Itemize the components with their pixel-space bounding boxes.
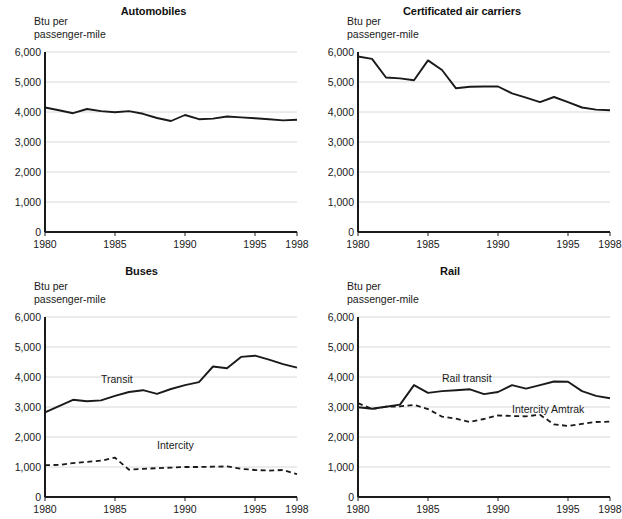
y-axis-tick-label: 3,000	[314, 136, 354, 148]
y-axis-tick-label: 2,000	[1, 166, 41, 178]
series-label: Intercity Amtrak	[512, 403, 584, 415]
y-axis-tick-label: 1,000	[314, 461, 354, 473]
panel-air-carriers: Certificated air carriers Btu per passen…	[307, 0, 617, 260]
y-axis-tick-label: 5,000	[1, 76, 41, 88]
y-axis-label-air-carriers: Btu per passenger-mile	[347, 15, 419, 41]
y-axis-tick-label: 2,000	[1, 431, 41, 443]
panel-automobiles: Automobiles Btu per passenger-mile 01,00…	[0, 0, 307, 260]
x-axis-tick-label: 1985	[416, 238, 439, 250]
y-axis-label-rail: Btu per passenger-mile	[347, 280, 419, 306]
y-axis-tick-label: 1,000	[314, 196, 354, 208]
x-axis-tick-label: 1990	[173, 503, 196, 515]
x-axis-tick-label: 1980	[346, 238, 369, 250]
panel-rail: Rail Btu per passenger-mile 01,0002,0003…	[307, 260, 617, 519]
y-axis-tick-label: 0	[1, 491, 41, 503]
x-axis-tick-label: 1995	[243, 503, 266, 515]
chart-svg	[45, 317, 297, 497]
plot-buses	[45, 317, 297, 497]
data-line	[45, 356, 297, 413]
panel-title-buses: Buses	[0, 265, 307, 277]
x-axis-tick-label: 1990	[486, 503, 509, 515]
y-axis-tick-label: 6,000	[314, 46, 354, 58]
data-line	[45, 458, 297, 475]
y-axis-tick-label: 3,000	[314, 401, 354, 413]
x-axis-tick-label: 1998	[285, 503, 308, 515]
x-axis-tick-label: 1998	[285, 238, 308, 250]
panel-buses: Buses Btu per passenger-mile 01,0002,000…	[0, 260, 307, 519]
y-axis-tick-label: 1,000	[1, 196, 41, 208]
y-axis-tick-label: 2,000	[314, 431, 354, 443]
x-axis-tick-label: 1990	[173, 238, 196, 250]
y-axis-tick-label: 0	[1, 226, 41, 238]
data-line	[358, 57, 610, 111]
x-axis-tick-label: 1985	[103, 238, 126, 250]
series-label: Transit	[101, 373, 133, 385]
plot-automobiles	[45, 52, 297, 232]
x-axis-tick-label: 1995	[556, 238, 579, 250]
x-axis-tick-label: 1980	[33, 238, 56, 250]
y-axis-tick-label: 4,000	[314, 106, 354, 118]
y-axis-tick-label: 6,000	[314, 311, 354, 323]
y-axis-tick-label: 3,000	[1, 401, 41, 413]
y-axis-tick-label: 1,000	[1, 461, 41, 473]
y-axis-tick-label: 5,000	[1, 341, 41, 353]
y-axis-tick-label: 3,000	[1, 136, 41, 148]
y-axis-tick-label: 6,000	[1, 311, 41, 323]
y-axis-tick-label: 5,000	[314, 76, 354, 88]
x-axis-tick-label: 1995	[556, 503, 579, 515]
series-label: Rail transit	[442, 372, 492, 384]
y-axis-label-buses: Btu per passenger-mile	[34, 280, 106, 306]
x-axis-tick-label: 1998	[598, 238, 621, 250]
chart-svg	[358, 52, 610, 232]
x-axis-tick-label: 1985	[103, 503, 126, 515]
x-axis-tick-label: 1995	[243, 238, 266, 250]
x-axis-tick-label: 1980	[33, 503, 56, 515]
y-axis-tick-label: 0	[314, 226, 354, 238]
y-axis-tick-label: 4,000	[1, 106, 41, 118]
y-axis-label-automobiles: Btu per passenger-mile	[34, 15, 106, 41]
y-axis-tick-label: 0	[314, 491, 354, 503]
chart-svg	[45, 52, 297, 232]
x-axis-tick-label: 1980	[346, 503, 369, 515]
y-axis-tick-label: 2,000	[314, 166, 354, 178]
y-axis-tick-label: 6,000	[1, 46, 41, 58]
x-axis-tick-label: 1998	[598, 503, 621, 515]
panel-title-rail: Rail	[307, 265, 617, 277]
series-label: Intercity	[157, 439, 194, 451]
y-axis-tick-label: 4,000	[1, 371, 41, 383]
y-axis-tick-label: 4,000	[314, 371, 354, 383]
y-axis-tick-label: 5,000	[314, 341, 354, 353]
x-axis-tick-label: 1985	[416, 503, 439, 515]
data-line	[45, 108, 297, 122]
x-axis-tick-label: 1990	[486, 238, 509, 250]
plot-air-carriers	[358, 52, 610, 232]
